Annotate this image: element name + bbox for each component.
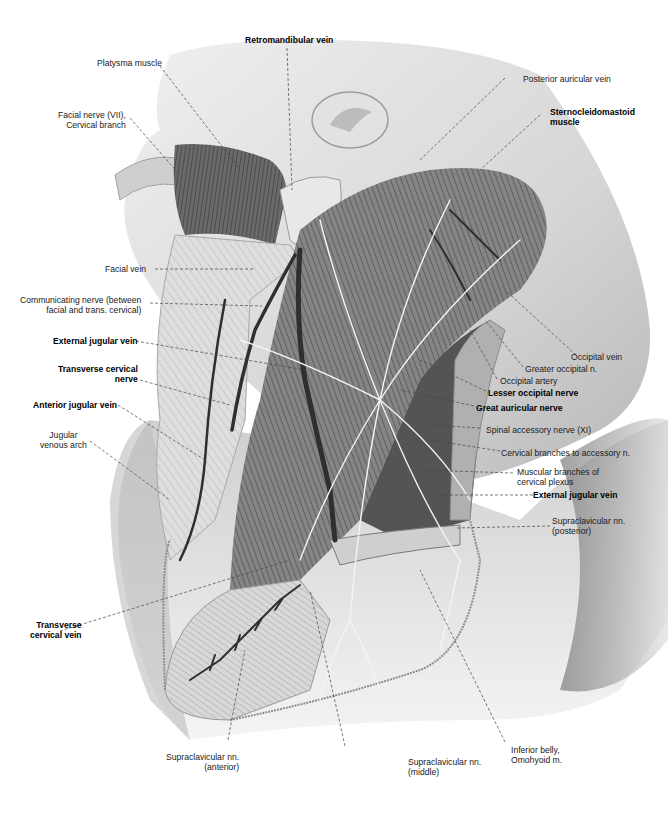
label-lesser-occipital-nerve: Lesser occipital nerve bbox=[488, 388, 578, 398]
label-great-auricular-nerve: Great auricular nerve bbox=[476, 403, 562, 413]
label-line: Communicating nerve (between bbox=[20, 295, 141, 305]
label-line: Omohyoid m. bbox=[511, 755, 562, 765]
label-line: (middle) bbox=[408, 767, 481, 777]
label-line: Inferior belly, bbox=[511, 745, 562, 755]
label-line: (posterior) bbox=[552, 526, 625, 536]
label-occipital-vein: Occipital vein bbox=[571, 352, 622, 362]
label-line: Transverse cervical bbox=[58, 364, 138, 374]
label-line: cervical vein bbox=[30, 630, 82, 640]
label-retromandibular-vein: Retromandibular vein bbox=[245, 35, 333, 45]
label-sternocleidomastoid-muscle: Sternocleidomastoid muscle bbox=[550, 107, 635, 127]
label-line: venous arch bbox=[40, 440, 87, 450]
label-greater-occipital-n: Greater occipital n. bbox=[525, 364, 597, 374]
label-supraclavicular-middle: Supraclavicular nn. (middle) bbox=[408, 757, 481, 777]
label-anterior-jugular-vein: Anterior jugular vein bbox=[33, 400, 117, 410]
label-posterior-auricular-vein: Posterior auricular vein bbox=[523, 74, 611, 84]
label-jugular-venous-arch: Jugular venous arch bbox=[40, 430, 87, 450]
label-line: nerve bbox=[58, 374, 138, 384]
label-transverse-cervical-vein: Transverse cervical vein bbox=[30, 620, 82, 640]
label-line: cervical plexus bbox=[517, 477, 599, 487]
label-muscular-branches-cervical-plexus: Muscular branches of cervical plexus bbox=[517, 467, 599, 487]
label-cervical-branches-accessory: Cervical branches to accessory n. bbox=[501, 448, 630, 458]
label-line: Supraclavicular nn. bbox=[408, 757, 481, 767]
label-line: facial and trans. cervical) bbox=[20, 305, 141, 315]
label-facial-nerve-cervical-branch: Facial nerve (VII), Cervical branch bbox=[58, 110, 126, 130]
label-line: Muscular branches of bbox=[517, 467, 599, 477]
label-external-jugular-vein-left: External jugular vein bbox=[53, 336, 138, 346]
label-spinal-accessory-nerve: Spinal accessory nerve (XI) bbox=[486, 425, 591, 435]
label-line: (anterior) bbox=[166, 762, 239, 772]
label-transverse-cervical-nerve: Transverse cervical nerve bbox=[58, 364, 138, 384]
label-line: muscle bbox=[550, 117, 635, 127]
label-line: Transverse bbox=[30, 620, 82, 630]
label-line: Supraclavicular nn. bbox=[166, 752, 239, 762]
label-communicating-nerve: Communicating nerve (between facial and … bbox=[20, 295, 141, 315]
label-platysma-muscle: Platysma muscle bbox=[97, 58, 162, 68]
label-line: Cervical branch bbox=[58, 120, 126, 130]
label-line: Facial nerve (VII), bbox=[58, 110, 126, 120]
label-facial-vein: Facial vein bbox=[105, 264, 146, 274]
label-line: Supraclavicular nn. bbox=[552, 516, 625, 526]
label-line: Jugular bbox=[40, 430, 87, 440]
label-inferior-belly-omohyoid: Inferior belly, Omohyoid m. bbox=[511, 745, 562, 765]
label-supraclavicular-posterior: Supraclavicular nn. (posterior) bbox=[552, 516, 625, 536]
label-supraclavicular-anterior: Supraclavicular nn. (anterior) bbox=[166, 752, 239, 772]
label-occipital-artery: Occipital artery bbox=[500, 376, 557, 386]
label-external-jugular-vein-right: External jugular vein bbox=[533, 490, 618, 500]
label-line: Sternocleidomastoid bbox=[550, 107, 635, 117]
